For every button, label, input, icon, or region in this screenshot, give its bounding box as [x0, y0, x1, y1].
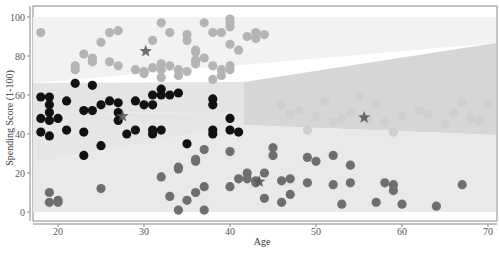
x-tick-label: 40 — [225, 226, 235, 237]
data-point — [260, 30, 269, 39]
data-point — [225, 14, 234, 23]
data-point — [475, 116, 484, 125]
data-point — [157, 59, 166, 68]
data-point — [165, 90, 174, 99]
data-point — [148, 100, 157, 109]
data-point — [131, 96, 140, 105]
data-point — [277, 198, 286, 207]
data-point — [88, 106, 97, 115]
data-point — [329, 180, 338, 189]
data-point — [191, 48, 200, 57]
data-point — [71, 65, 80, 74]
data-point — [294, 106, 303, 115]
data-point — [311, 112, 320, 121]
data-point — [337, 114, 346, 123]
data-point — [354, 92, 363, 101]
data-point — [286, 110, 295, 119]
x-axis-title: Age — [254, 236, 271, 247]
data-point — [389, 128, 398, 137]
data-point — [234, 46, 243, 55]
data-point — [208, 61, 217, 70]
data-point — [277, 100, 286, 109]
data-point — [191, 59, 200, 68]
data-point — [208, 75, 217, 84]
data-point — [225, 126, 234, 135]
data-point — [225, 114, 234, 123]
data-point — [260, 194, 269, 203]
data-point — [225, 147, 234, 156]
data-point — [148, 36, 157, 45]
data-point — [346, 161, 355, 170]
data-point — [105, 57, 114, 66]
data-point — [114, 98, 123, 107]
y-tick-label: 0 — [20, 207, 25, 218]
data-point — [303, 153, 312, 162]
data-point — [483, 100, 492, 109]
data-point — [329, 151, 338, 160]
data-point — [174, 163, 183, 172]
data-point — [337, 200, 346, 209]
data-point — [234, 128, 243, 137]
data-point — [225, 40, 234, 49]
data-point — [165, 192, 174, 201]
data-point — [449, 108, 458, 117]
data-point — [191, 155, 200, 164]
data-point — [139, 67, 148, 76]
x-tick-label: 60 — [397, 226, 407, 237]
data-point — [105, 96, 114, 105]
data-point — [346, 108, 355, 117]
data-point — [105, 28, 114, 37]
data-point — [208, 94, 217, 103]
data-point — [182, 139, 191, 148]
data-point — [397, 200, 406, 209]
data-point — [191, 188, 200, 197]
data-point — [251, 34, 260, 43]
data-point — [286, 174, 295, 183]
data-point — [88, 81, 97, 90]
data-point — [286, 190, 295, 199]
data-point — [200, 145, 209, 154]
data-point — [277, 176, 286, 185]
data-point — [182, 196, 191, 205]
data-point — [79, 50, 88, 59]
y-tick-label: 80 — [15, 51, 25, 62]
data-point — [208, 129, 217, 138]
y-tick-label: 100 — [10, 12, 25, 23]
data-point — [372, 100, 381, 109]
data-point — [225, 61, 234, 70]
data-point — [200, 53, 209, 62]
x-tick-label: 50 — [311, 226, 321, 237]
data-point — [96, 184, 105, 193]
data-point — [458, 180, 467, 189]
data-point — [320, 96, 329, 105]
data-point — [174, 88, 183, 97]
data-point — [380, 118, 389, 127]
y-axis-title: Spending Score (1-100) — [4, 70, 16, 166]
data-point — [96, 141, 105, 150]
data-point — [62, 96, 71, 105]
data-point — [36, 128, 45, 137]
data-point — [96, 38, 105, 47]
data-point — [45, 188, 54, 197]
data-point — [174, 71, 183, 80]
data-point — [36, 92, 45, 101]
data-point — [88, 53, 97, 62]
data-point — [329, 118, 338, 127]
data-point — [165, 61, 174, 70]
y-tick-label: 60 — [15, 90, 25, 101]
data-point — [303, 178, 312, 187]
data-point — [79, 151, 88, 160]
data-point — [260, 168, 269, 177]
y-tick-label: 20 — [15, 168, 25, 179]
y-tick-label: 40 — [15, 129, 25, 140]
data-point — [165, 28, 174, 37]
cluster-scatter-chart: 020406080100 203040506070 Age Spending S… — [0, 0, 499, 254]
data-point — [200, 18, 209, 27]
data-point — [389, 186, 398, 195]
data-point — [234, 174, 243, 183]
data-point — [432, 202, 441, 211]
data-point — [380, 178, 389, 187]
data-point — [303, 126, 312, 135]
data-point — [45, 108, 54, 117]
data-point — [139, 100, 148, 109]
